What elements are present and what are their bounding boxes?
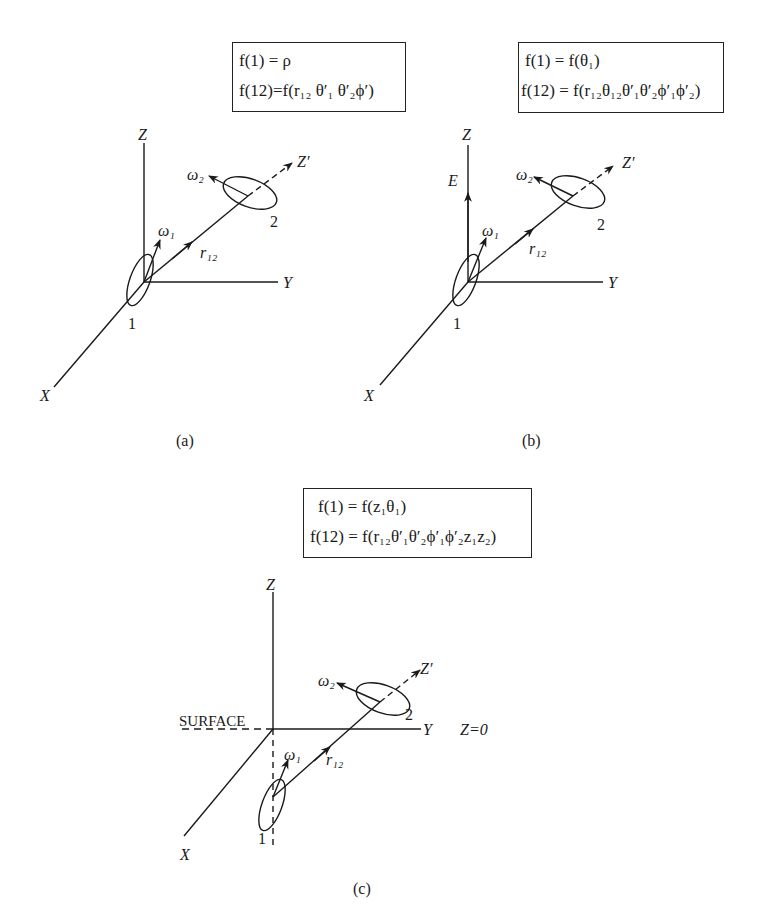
molecule-2-ellipse: [219, 170, 281, 215]
diagram-canvas: Z Y X Z′ ω₁ ω₂ r₁₂ 1 2 (a) Z E Y X Z′ ω₁…: [0, 0, 765, 908]
label-y: Y: [423, 721, 434, 738]
label-x: X: [363, 387, 375, 404]
label-x: X: [39, 387, 51, 404]
label-z: Z: [462, 126, 472, 143]
label-y: Y: [283, 274, 294, 291]
label-omega2: ω₂: [516, 166, 533, 183]
molecule-1-ellipse: [447, 251, 484, 309]
label-z-prime: Z′: [420, 660, 433, 677]
label-field-e: E: [447, 172, 458, 189]
label-plane-z0: Z=0: [460, 721, 488, 738]
label-z: Z: [266, 576, 276, 593]
caption-b: (b): [522, 432, 541, 450]
label-omega1: ω₁: [158, 222, 175, 239]
label-r12: r₁₂: [529, 240, 547, 257]
label-surface: SURFACE: [179, 713, 245, 729]
label-omega2: ω₂: [187, 166, 204, 183]
panel-b-labels: Z E Y X Z′ ω₁ ω₂ r₁₂ 1 2: [363, 126, 635, 404]
label-molecule-2: 2: [270, 213, 278, 230]
label-omega1: ω₁: [284, 746, 301, 763]
label-x: X: [179, 846, 191, 863]
label-molecule-1: 1: [128, 315, 136, 332]
molecule-1-ellipse: [253, 776, 290, 834]
caption-a: (a): [176, 432, 194, 450]
label-molecule-2: 2: [405, 706, 413, 723]
caption-c: (c): [353, 880, 371, 898]
panel-c-labels: Z Y X Z′ ω₁ ω₂ r₁₂ 1 2 SURFACE Z=0: [179, 576, 488, 863]
panel-a: [54, 143, 292, 387]
label-r12: r₁₂: [200, 244, 218, 261]
z-prime-axis: [573, 166, 613, 196]
label-molecule-2: 2: [597, 216, 605, 233]
z-prime-axis: [380, 670, 420, 702]
label-molecule-1: 1: [453, 315, 461, 332]
label-z-prime: Z′: [622, 154, 635, 171]
label-omega2: ω₂: [318, 672, 335, 689]
label-molecule-1: 1: [258, 830, 266, 847]
panel-a-labels: Z Y X Z′ ω₁ ω₂ r₁₂ 1 2: [39, 126, 310, 404]
label-r12: r₁₂: [326, 751, 344, 768]
label-y: Y: [608, 274, 619, 291]
x-axis: [380, 282, 468, 385]
x-axis: [54, 282, 144, 387]
label-omega1: ω₁: [482, 222, 499, 239]
panel-b: [380, 145, 613, 385]
label-z: Z: [138, 126, 148, 143]
label-z-prime: Z′: [297, 153, 310, 170]
r12-arrow-icon: [172, 242, 192, 259]
r12-vector: [144, 196, 248, 282]
x-axis: [184, 729, 273, 836]
